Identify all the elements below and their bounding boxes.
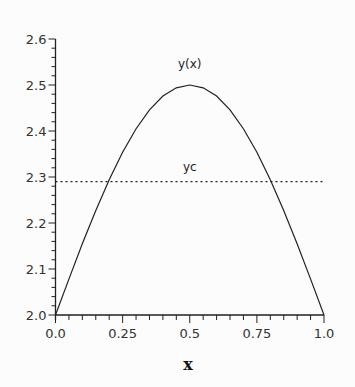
x-tick-label: 1.0	[314, 326, 335, 341]
y-tick-label: 2.3	[26, 170, 47, 185]
axis-ticks: 2.02.12.22.32.42.52.60.00.250.50.751.0	[26, 32, 335, 341]
y-tick-label: 2.4	[26, 124, 47, 139]
x-tick-label: 0.0	[45, 326, 66, 341]
x-tick-label: 0.75	[242, 326, 271, 341]
y-tick-label: 2.1	[26, 262, 47, 277]
y-tick-label: 2.0	[26, 308, 47, 323]
y-tick-label: 2.2	[26, 216, 47, 231]
y-tick-label: 2.5	[26, 78, 47, 93]
x-tick-label: 0.5	[179, 326, 200, 341]
x-tick-label: 0.25	[108, 326, 137, 341]
plot-area: y(x)yc	[56, 57, 325, 315]
curve-yx	[56, 85, 325, 315]
axes	[56, 39, 325, 320]
line-chart: 2.02.12.22.32.42.52.60.00.250.50.751.0 y…	[0, 0, 355, 387]
label-yx: y(x)	[178, 57, 202, 71]
label-yc: yc	[183, 160, 197, 174]
x-axis-title: x	[183, 355, 193, 374]
y-tick-label: 2.6	[26, 32, 47, 47]
